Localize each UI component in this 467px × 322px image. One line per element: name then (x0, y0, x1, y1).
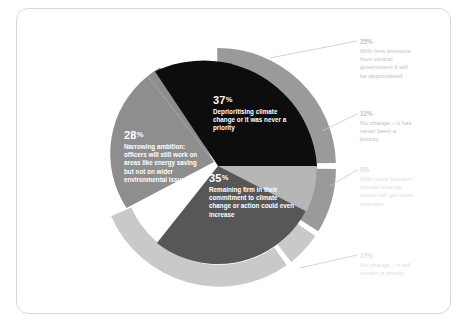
pie-label-28: 28% Narrowing ambition: officers will st… (124, 129, 206, 184)
ring-callout-12-description: No change – it has never been a priority (360, 119, 416, 144)
ring-callout-12-percent: 12% (360, 110, 416, 118)
ring-callout-8: 8% With more freedom climate change acti… (360, 166, 416, 208)
leader-line-25 (270, 41, 357, 58)
percent-symbol: % (137, 130, 144, 139)
pie-label-28-percent: 28% (124, 129, 206, 141)
pie-label-37-description: Deprioritising climate change or it was … (213, 108, 299, 133)
ring-callout-12: 12% No change – it has never been a prio… (360, 110, 416, 144)
percent-symbol: % (222, 173, 229, 182)
ring-callout-8-percent: 8% (360, 166, 416, 174)
pie-label-35-percent: 35% (209, 172, 297, 184)
ring-callout-17-description: No change – it will remain a priority (360, 261, 416, 277)
ring-callout-17: 17% No change – it will remain a priorit… (360, 252, 416, 277)
pie-label-28-description: Narrowing ambition: officers will still … (124, 143, 206, 184)
leader-line-17 (300, 255, 357, 268)
ring-callout-25-description: With less pressure from central governme… (360, 47, 416, 80)
ring-callout-25: 25% With less pressure from central gove… (360, 38, 416, 80)
percent-symbol: % (226, 95, 233, 104)
ring-callout-25-percent: 25% (360, 38, 416, 46)
pie-label-35: 35% Remaining firm in their commitment t… (209, 172, 297, 219)
pie-label-35-description: Remaining firm in their commitment to cl… (209, 186, 297, 219)
ring-callout-8-description: With more freedom climate change action … (360, 175, 416, 208)
pie-label-37: 37% Deprioritising climate change or it … (213, 94, 299, 133)
pie-label-37-percent: 37% (213, 94, 299, 106)
pie-chart: 37% Deprioritising climate change or it … (0, 0, 467, 322)
ring-callout-17-percent: 17% (360, 252, 416, 260)
